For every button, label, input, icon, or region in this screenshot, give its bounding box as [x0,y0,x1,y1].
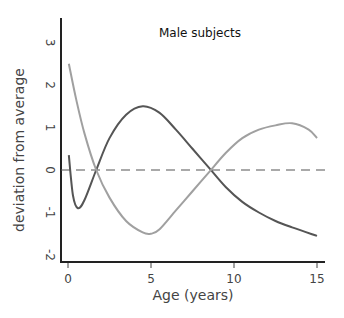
x-tick-label: 0 [64,272,72,286]
y-axis-ticks: -2-10123 [43,39,57,261]
y-tick-label: -1 [43,207,57,219]
x-tick-label: 10 [226,272,241,286]
x-tick-label: 15 [309,272,324,286]
x-axis-label: Age (years) [153,287,234,303]
chart-title: Male subjects [159,26,241,40]
y-tick-label: 3 [43,39,57,47]
x-tick-label: 5 [147,272,155,286]
line-chart: Male subjects -2-10123 051015 Age (years… [0,0,344,318]
y-tick-label: 2 [43,81,57,89]
dark-series-line [69,106,317,236]
y-tick-label: 1 [43,124,57,132]
y-tick-label: 0 [43,166,57,174]
x-axis-ticks: 051015 [64,262,324,286]
y-tick-label: -2 [43,249,57,261]
y-axis-label: deviation from average [11,68,27,232]
